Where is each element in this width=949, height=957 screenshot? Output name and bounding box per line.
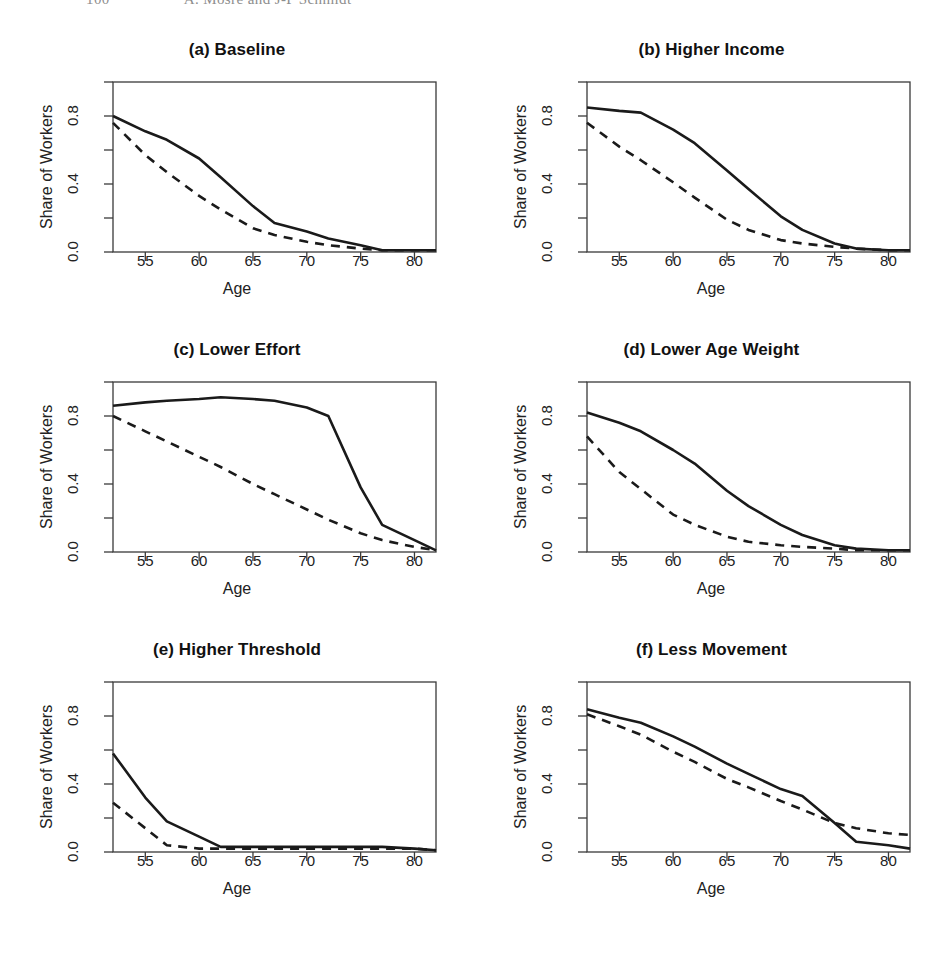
plot-canvas-e [0,666,474,918]
chart-panel-d: (d) Lower Age WeightShare of Workers0.00… [474,322,949,622]
plot-area-f: Share of Workers0.00.40.8556065707580Age [474,666,948,918]
running-head-inner: 100A. Mosre and J-P Schmidt [0,0,949,8]
panel-title-c: (c) Lower Effort [0,340,474,360]
chart-panel-b: (b) Higher IncomeShare of Workers0.00.40… [474,22,949,322]
panel-title-a: (a) Baseline [0,40,474,60]
plot-canvas-d [474,366,948,618]
series-line-dashed [113,123,436,251]
running-head-folio: 100 [0,0,110,7]
chart-panel-e: (e) Higher ThresholdShare of Workers0.00… [0,622,474,940]
series-line-dashed [113,803,436,851]
panel-title-b: (b) Higher Income [474,40,949,60]
plot-area-d: Share of Workers0.00.40.8556065707580Age [474,366,948,618]
plot-box [113,682,436,852]
chart-panel-f: (f) Less MovementShare of Workers0.00.40… [474,622,949,940]
plot-canvas-a [0,66,474,318]
plot-box [587,82,910,252]
chart-panel-c: (c) Lower EffortShare of Workers0.00.40.… [0,322,474,622]
series-line-dashed [113,416,436,550]
panel-title-f: (f) Less Movement [474,640,949,660]
plot-canvas-f [474,666,948,918]
running-head: 100A. Mosre and J-P Schmidt [0,0,949,14]
panel-title-d: (d) Lower Age Weight [474,340,949,360]
series-line-solid [587,413,910,551]
plot-area-c: Share of Workers0.00.40.8556065707580Age [0,366,474,618]
figure-panel-grid: (a) BaselineShare of Workers0.00.40.8556… [0,22,949,957]
series-line-solid [587,709,910,848]
panel-title-e: (e) Higher Threshold [0,640,474,660]
chart-panel-a: (a) BaselineShare of Workers0.00.40.8556… [0,22,474,322]
series-line-dashed [587,123,910,251]
series-line-solid [113,397,436,550]
series-line-solid [113,116,436,250]
plot-area-e: Share of Workers0.00.40.8556065707580Age [0,666,474,918]
plot-box [587,382,910,552]
plot-area-b: Share of Workers0.00.40.8556065707580Age [474,66,948,318]
plot-canvas-c [0,366,474,618]
plot-area-a: Share of Workers0.00.40.8556065707580Age [0,66,474,318]
running-head-title: A. Mosre and J-P Schmidt [110,0,352,7]
plot-canvas-b [474,66,948,318]
series-line-dashed [587,436,910,550]
series-line-solid [113,753,436,850]
plot-box [587,682,910,852]
